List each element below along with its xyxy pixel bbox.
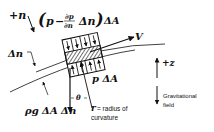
radius-label-1: = radius of <box>97 105 128 112</box>
bottom-force-label: p ΔA <box>92 73 118 84</box>
fluid-element <box>62 33 105 78</box>
radius-label-2: curvature <box>91 114 118 121</box>
delta-n-label: Δn <box>7 48 23 59</box>
gravitational-label-2: field <box>163 102 174 108</box>
plus-n-label: +n <box>9 9 26 22</box>
top-force-minus: − <box>55 15 64 28</box>
top-force-delta-a: ΔA <box>103 15 120 26</box>
theta-label: θ <box>76 93 81 102</box>
plus-z-label: +z <box>162 58 176 68</box>
weight-label: ρg ΔA Δn <box>24 105 76 116</box>
velocity-label: V <box>135 31 144 42</box>
top-force-dp: ∂p <box>65 12 74 21</box>
delta-n-leader-lower <box>43 82 48 95</box>
close-paren: ) <box>95 10 104 29</box>
top-force-delta-n: Δn <box>78 15 96 28</box>
delta-n-leader <box>27 52 35 66</box>
streamline-force-diagram: +n ( p − ∂p ∂n Δn ) ΔA V Δn p ΔA +z Grav… <box>0 0 214 132</box>
normal-direction-arrow <box>28 16 34 32</box>
top-force-dn: ∂n <box>64 21 73 30</box>
gravitational-label-1: Gravitational <box>163 93 197 99</box>
top-force-p: p <box>46 15 54 28</box>
